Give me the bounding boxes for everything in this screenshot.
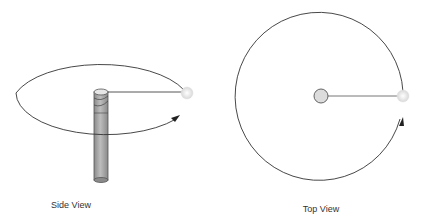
diagram-canvas: [0, 0, 422, 224]
ball-icon: [181, 87, 193, 99]
top-view-label: Top View: [271, 204, 371, 214]
pole-top-cap: [94, 89, 108, 95]
side-view-label: Side View: [21, 200, 121, 210]
direction-arrow-icon: [399, 117, 404, 126]
pole: [94, 89, 108, 183]
ball-icon: [397, 90, 409, 102]
side-view-panel: [16, 64, 193, 182]
top-view-panel: [235, 12, 409, 180]
pole-top-icon: [314, 89, 328, 103]
